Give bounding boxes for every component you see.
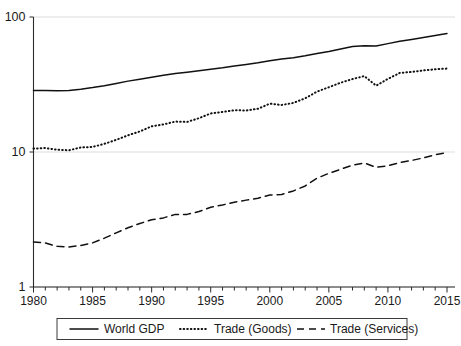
x-tick-label: 1985 [79, 294, 106, 308]
legend-label: Trade (Goods) [214, 322, 292, 336]
log-line-chart: 110100 19801985199019952000200520102015 … [0, 0, 461, 346]
x-tick-label: 1995 [197, 294, 224, 308]
legend-label: Trade (Services) [330, 322, 418, 336]
x-tick-label: 2000 [256, 294, 283, 308]
y-tick-label: 1 [19, 280, 26, 294]
legend-label: World GDP [104, 322, 164, 336]
x-tick-label: 2010 [375, 294, 402, 308]
x-tick-label: 2005 [316, 294, 343, 308]
y-tick-label: 100 [5, 10, 26, 24]
chart-figure: 110100 19801985199019952000200520102015 … [0, 0, 461, 346]
x-tick-label: 1980 [20, 294, 47, 308]
x-tick-label: 2015 [434, 294, 461, 308]
y-tick-label: 10 [12, 145, 26, 159]
x-tick-label: 1990 [138, 294, 165, 308]
